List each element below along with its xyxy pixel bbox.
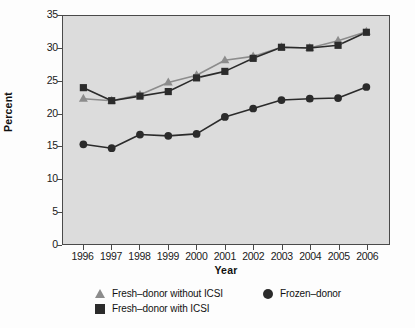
data-point-circle [136,131,144,139]
data-point-circle [193,130,201,138]
data-point-circle [362,83,370,91]
legend-item-fresh-donor-with-icsi[interactable]: Fresh–donor with ICSI [95,303,209,314]
data-point-square [221,68,228,75]
data-point-circle [249,105,257,113]
data-point-square [250,55,257,62]
y-axis-title: Percent [2,82,14,142]
data-point-square [278,44,285,51]
data-point-circle [306,95,314,103]
y-axis-tick-label: 20 [28,107,58,119]
data-point-square [165,88,172,95]
square-icon [95,304,105,314]
y-axis-tick-labels: 05101520253035 [26,0,58,328]
data-point-circle [108,144,116,152]
data-point-square [363,29,370,36]
data-point-circle [79,140,87,148]
data-point-square [80,84,87,91]
circle-icon [263,289,273,299]
legend-label: Fresh–donor without ICSI [112,288,223,299]
data-point-circle [278,96,286,104]
legend-item-fresh-donor-without-icsi[interactable]: Fresh–donor without ICSI [95,288,223,299]
y-axis-tick-label: 10 [28,172,58,184]
data-point-square [136,93,143,100]
y-axis-tick-mark [57,245,62,246]
data-point-circle [334,94,342,102]
x-axis-tick-label: 2006 [347,250,387,262]
y-axis-tick-label: 5 [28,205,58,217]
data-point-circle [164,132,172,140]
y-axis-tick-label: 35 [28,8,58,20]
y-axis-tick-label: 25 [28,74,58,86]
y-axis-tick-label: 15 [28,139,58,151]
plot-area [62,15,390,245]
data-point-triangle [79,94,88,102]
data-point-square [306,44,313,51]
data-point-square [334,42,341,49]
data-point-square [108,97,115,104]
series-line [83,32,366,100]
data-point-circle [221,113,229,121]
legend-item-frozen-donor[interactable]: Frozen–donor [263,288,341,299]
line-chart-figure: 05101520253035 1996199719981999200020012… [0,0,415,328]
data-point-square [193,74,200,81]
legend-label: Fresh–donor with ICSI [112,303,209,314]
series-line [83,32,366,101]
y-axis-tick-label: 30 [28,41,58,53]
triangle-icon [95,289,105,298]
plot-svg [63,16,389,244]
chart-legend: Fresh–donor without ICSI Fresh–donor wit… [95,288,385,322]
x-axis-title: Year [62,264,390,276]
legend-label: Frozen–donor [280,288,341,299]
y-axis-tick-label: 0 [28,238,58,250]
